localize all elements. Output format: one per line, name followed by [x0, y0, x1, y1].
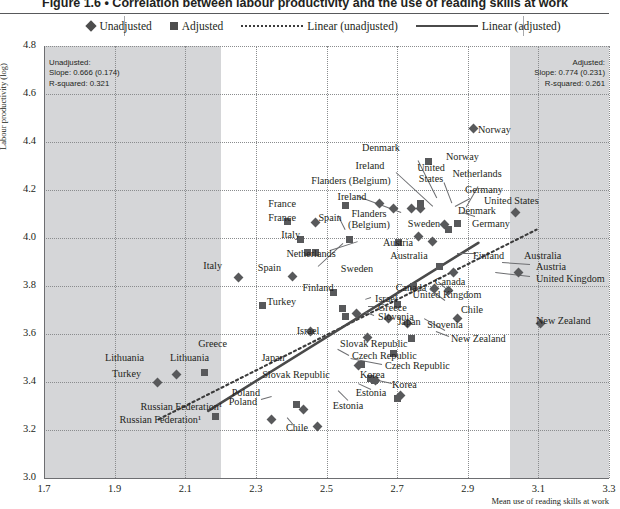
annotation-adjusted: Adjusted: Slope: 0.774 (0.231) R-squared…: [523, 58, 605, 89]
country-label: Netherlands: [286, 249, 335, 260]
x-tick-2.5: 2.5: [307, 483, 347, 494]
country-label: Lithuania: [105, 353, 144, 364]
legend-label-adjusted: Adjusted: [182, 20, 224, 32]
y-tick-3.2: 3.2: [0, 423, 36, 434]
country-label: Australia: [390, 251, 427, 262]
data-point: [408, 335, 415, 342]
legend-items: Unadjusted Adjusted Linear (unadjusted) …: [124, 14, 524, 38]
country-label: Flanders(Belgium): [348, 209, 390, 230]
data-point: [201, 369, 208, 376]
country-label: Netherlands: [452, 169, 501, 180]
country-label: Sweden: [408, 219, 440, 230]
legend-item-linear-unadjusted[interactable]: Linear (unadjusted): [241, 20, 397, 32]
data-point: [436, 263, 443, 270]
y-tick-3.8: 3.8: [0, 279, 36, 290]
figure-title-text: Figure 1.6 • Correlation between labour …: [42, 0, 568, 10]
country-label: Denmark: [362, 143, 400, 154]
annotation-unadjusted-title: Unadjusted:: [49, 58, 120, 68]
leader-line: [368, 306, 374, 307]
annotation-adjusted-rsquared: R-squared: 0.261: [523, 79, 605, 89]
x-tick-3.1: 3.1: [518, 483, 558, 494]
country-label: Greece: [198, 339, 227, 350]
data-point: [454, 220, 461, 227]
figure-title: Figure 1.6 • Correlation between labour …: [42, 0, 609, 12]
country-label: Germany: [472, 219, 510, 230]
country-label: Italy: [203, 261, 222, 272]
legend-item-linear-adjusted[interactable]: Linear (adjusted): [416, 20, 561, 32]
legend-label-linear-adjusted: Linear (adjusted): [482, 20, 561, 32]
data-point: [346, 236, 353, 243]
x-tick-1.9: 1.9: [95, 483, 135, 494]
country-label: Korea: [392, 380, 417, 391]
country-label: France: [268, 213, 296, 224]
legend-item-unadjusted[interactable]: Unadjusted: [87, 20, 151, 32]
y-tick-3.6: 3.6: [0, 327, 36, 338]
annotation-unadjusted-slope: Slope: 0.666 (0.174): [49, 68, 120, 78]
scatter-plot-area: NorwayNorwayDenmarkIrelandUnitedStatesNe…: [44, 46, 609, 478]
country-label: Russian Federation¹: [141, 402, 222, 413]
x-tick-2.7: 2.7: [377, 483, 417, 494]
country-label: Slovak Republic: [262, 370, 330, 381]
country-label: Austria: [536, 262, 566, 273]
country-label: Finland: [302, 283, 333, 294]
y-tick-3.4: 3.4: [0, 375, 36, 386]
country-label: Norway: [446, 152, 479, 163]
country-label: Poland: [229, 397, 257, 408]
data-point: [342, 202, 349, 209]
country-label: Japan: [397, 317, 420, 328]
x-tick-2.3: 2.3: [236, 483, 276, 494]
x-tick-2.9: 2.9: [448, 483, 488, 494]
y-tick-4.0: 4.0: [0, 231, 36, 242]
country-label: Slovenia: [427, 320, 463, 331]
country-label: Sweden: [341, 264, 373, 275]
gridline-vertical: [609, 46, 610, 478]
country-label: Japan: [261, 353, 284, 364]
country-label: Estonia: [333, 401, 364, 412]
country-label: Turkey: [267, 297, 296, 308]
country-label: United Kingdom: [413, 290, 482, 301]
country-label: Norway: [478, 125, 511, 136]
country-label: Turkey: [112, 369, 141, 380]
country-label: New Zealand: [451, 334, 506, 345]
data-point: [358, 361, 365, 368]
data-point: [394, 395, 401, 402]
country-label: UnitedStates: [417, 163, 445, 184]
country-label: Austria: [383, 238, 413, 249]
country-label: United Kingdom: [536, 274, 605, 285]
data-point: [417, 200, 424, 207]
solid-line-icon: [416, 25, 478, 27]
y-tick-3.0: 3.0: [0, 471, 36, 482]
square-marker-icon: [170, 22, 178, 30]
y-tick-4.2: 4.2: [0, 183, 36, 194]
data-point: [342, 313, 349, 320]
country-label: Spain: [318, 213, 341, 224]
x-axis-title: Mean use of reading skills at work: [491, 496, 609, 506]
x-axis-line: [44, 478, 609, 479]
legend-label-linear-unadjusted: Linear (unadjusted): [307, 20, 397, 32]
diamond-marker-icon: [86, 20, 97, 31]
y-tick-4.8: 4.8: [0, 39, 36, 50]
country-label: Finland: [473, 251, 504, 262]
country-label: Slovak Republic: [340, 339, 408, 350]
country-label: Israel: [297, 326, 320, 337]
data-point: [259, 302, 266, 309]
country-label: Czech Republic: [385, 361, 450, 372]
country-label: Estonia: [356, 388, 387, 399]
x-tick-3.3: 3.3: [589, 483, 620, 494]
data-point: [445, 226, 452, 233]
country-label: Russian Federation¹: [120, 415, 201, 426]
data-point: [212, 413, 219, 420]
country-label: Chile: [461, 305, 483, 316]
legend-item-adjusted[interactable]: Adjusted: [170, 20, 224, 32]
country-label: Chile: [286, 423, 308, 434]
country-label: Ireland: [356, 161, 385, 172]
country-label: Italy: [281, 230, 300, 241]
x-tick-2.1: 2.1: [165, 483, 205, 494]
country-label: Flanders (Belgium): [311, 176, 391, 187]
annotation-adjusted-slope: Slope: 0.774 (0.231): [523, 68, 605, 78]
annotation-unadjusted: Unadjusted: Slope: 0.666 (0.174) R-squar…: [49, 58, 120, 89]
y-axis-title: Labour productivity (log): [0, 63, 8, 150]
data-point: [339, 305, 346, 312]
country-label: Ireland: [338, 192, 367, 203]
legend-label-unadjusted: Unadjusted: [99, 20, 151, 32]
